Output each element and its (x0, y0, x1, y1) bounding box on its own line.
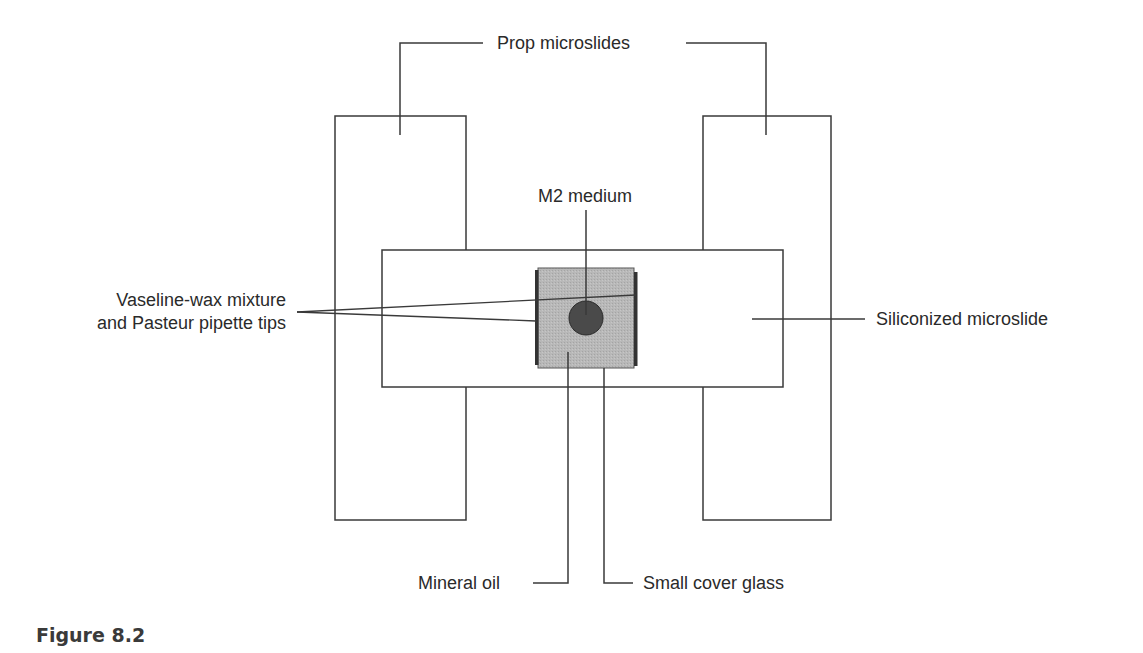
small-cover-glass-leader (604, 368, 633, 583)
m2-medium-label: M2 medium (538, 185, 632, 207)
prop-microslides-label: Prop microslides (497, 32, 630, 54)
siliconized-microslide-label: Siliconized microslide (876, 308, 1048, 330)
vaseline-wax-label-line2: and Pasteur pipette tips (97, 312, 286, 334)
mineral-oil-label: Mineral oil (418, 572, 500, 594)
right-wax-strip (634, 272, 638, 366)
vaseline-wax-label-line1: Vaseline-wax mixture (116, 289, 286, 311)
figure-caption: Figure 8.2 (36, 624, 145, 646)
small-cover-glass-label: Small cover glass (643, 572, 784, 594)
left-wax-strip (535, 270, 539, 365)
